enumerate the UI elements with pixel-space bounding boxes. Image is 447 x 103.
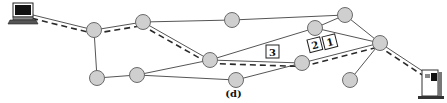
router-node-I bbox=[90, 71, 105, 86]
link-B-G bbox=[143, 22, 210, 60]
packet-3: 3 bbox=[266, 45, 279, 58]
link-G-D bbox=[210, 28, 315, 60]
router-node-L bbox=[343, 73, 358, 88]
router-node-C bbox=[225, 13, 240, 28]
route-segment bbox=[32, 18, 93, 33]
route-segment bbox=[210, 63, 302, 66]
link-laptop-A bbox=[33, 15, 94, 30]
svg-text:3: 3 bbox=[269, 47, 276, 58]
link-J-K bbox=[137, 75, 236, 80]
link-J-G bbox=[137, 60, 210, 75]
router-node-B bbox=[136, 15, 151, 30]
router-node-F bbox=[373, 36, 388, 51]
figure-caption: (d) bbox=[0, 88, 447, 99]
router-node-D bbox=[308, 21, 323, 36]
link-C-E bbox=[232, 15, 345, 20]
router-node-J bbox=[130, 68, 145, 83]
packet-1: 1 bbox=[322, 34, 338, 50]
route-segment bbox=[378, 46, 422, 75]
packet-2: 2 bbox=[307, 37, 323, 53]
link-G-H bbox=[210, 60, 302, 63]
router-node-E bbox=[338, 8, 353, 23]
router-node-H bbox=[295, 56, 310, 71]
router-nodes bbox=[87, 8, 388, 88]
link-B-C bbox=[143, 20, 232, 22]
packets: 321 bbox=[266, 34, 338, 58]
router-node-A bbox=[87, 23, 102, 38]
laptop-icon bbox=[8, 3, 38, 24]
route-segment bbox=[141, 25, 208, 63]
router-node-K bbox=[229, 73, 244, 88]
router-node-G bbox=[203, 53, 218, 68]
